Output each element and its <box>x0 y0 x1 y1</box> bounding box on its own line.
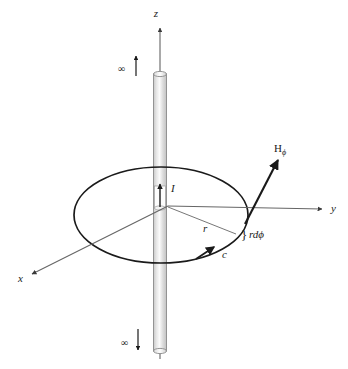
arc-element-brace: } <box>241 227 247 242</box>
x-axis-label: x <box>17 272 23 284</box>
arc-element-annotation: } rdϕ <box>241 227 264 242</box>
y-axis-line <box>168 206 322 209</box>
radius-line <box>168 207 236 234</box>
wire-bottom-cap <box>154 348 167 353</box>
radius-label-r: r <box>203 222 208 234</box>
h-phi-label-subscript: ϕ <box>282 148 286 157</box>
h-phi-vector: H ϕ <box>245 142 286 224</box>
h-phi-label-base: H <box>274 142 282 154</box>
arc-element-label: rdϕ <box>249 228 264 240</box>
radius-indicator: r <box>168 207 236 234</box>
h-phi-arrow <box>245 160 278 224</box>
y-axis-label: y <box>330 202 336 214</box>
wire-top-cap <box>154 71 167 76</box>
infinity-symbol-top: ∞ <box>118 63 125 74</box>
infinity-symbol-bottom: ∞ <box>121 337 128 348</box>
figure-canvas: z c I y <box>0 0 348 369</box>
z-axis-label: z <box>153 7 159 19</box>
current-label-I: I <box>170 182 176 194</box>
top-infinity-marker: ∞ <box>118 56 136 76</box>
bottom-infinity-marker: ∞ <box>121 329 138 350</box>
contour-label-c: c <box>222 248 227 260</box>
x-axis-line <box>32 206 168 274</box>
wire-field-diagram: z c I y <box>0 0 348 369</box>
